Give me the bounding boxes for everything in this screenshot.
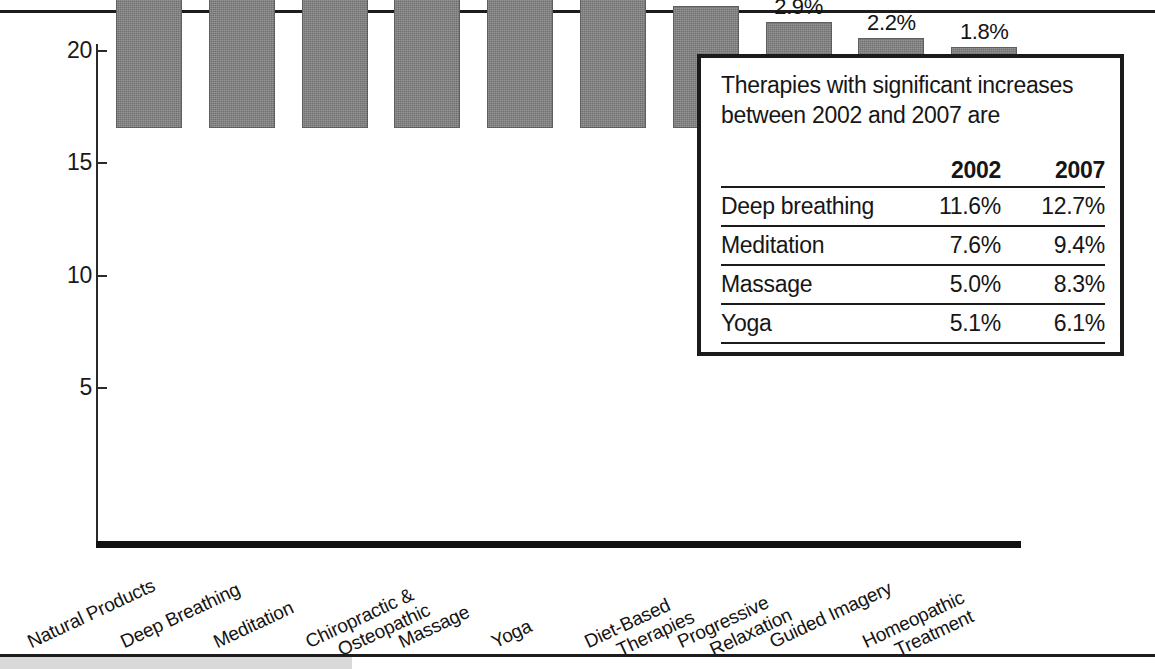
x-category-label: Yoga — [488, 615, 535, 652]
bar — [209, 0, 275, 128]
y-tick-label-text: 10 — [46, 264, 92, 287]
bar-value-label: 1.8% — [960, 21, 1009, 43]
y-tick-mark — [96, 275, 107, 277]
figure-root: 5101520 17.7%12.7%9.4%8.6%8.3%6.1%3.6%2.… — [0, 0, 1155, 669]
inset-data-table: 2002 2007 Deep breathing11.6%12.7%Medita… — [721, 152, 1105, 344]
inset-cell-2007: 12.7% — [1001, 187, 1105, 226]
bar-column: 8.6% — [394, 0, 460, 128]
inset-cell-2007: 6.1% — [1001, 304, 1105, 343]
bar-column: 17.7% — [116, 0, 182, 128]
inset-title: Therapies with significant increases bet… — [721, 70, 1111, 130]
inset-cell-therapy: Meditation — [721, 226, 897, 265]
bar-column: 12.7% — [209, 0, 275, 128]
y-tick-mark — [96, 162, 107, 164]
y-tick-mark — [96, 387, 107, 389]
inset-col-2007: 2007 — [1001, 152, 1105, 187]
inset-cell-2002: 7.6% — [897, 226, 1001, 265]
inset-cell-2007: 9.4% — [1001, 226, 1105, 265]
inset-callout-box: Therapies with significant increases bet… — [697, 54, 1124, 356]
bottom-gray-band — [0, 657, 352, 669]
inset-table-row: Massage5.0%8.3% — [721, 265, 1105, 304]
y-tick-label-text: 20 — [46, 39, 92, 62]
bar-value-label: 3.6% — [682, 0, 731, 2]
inset-table-row: Meditation7.6%9.4% — [721, 226, 1105, 265]
inset-table-row: Yoga5.1%6.1% — [721, 304, 1105, 343]
y-axis-line — [96, 44, 98, 546]
x-category-label-line: Yoga — [488, 615, 535, 652]
inset-col-therapy — [721, 152, 897, 187]
y-tick-mark — [96, 50, 107, 52]
inset-header-row: 2002 2007 — [721, 152, 1105, 187]
bar-value-label: 2.2% — [867, 12, 916, 34]
inset-cell-2007: 8.3% — [1001, 265, 1105, 304]
bar — [302, 0, 368, 128]
inset-cell-2002: 11.6% — [897, 187, 1001, 226]
inset-cell-therapy: Yoga — [721, 304, 897, 343]
inset-col-2002: 2002 — [897, 152, 1001, 187]
bar — [116, 0, 182, 128]
inset-table-row: Deep breathing11.6%12.7% — [721, 187, 1105, 226]
bar — [580, 0, 646, 128]
y-tick-label-text: 15 — [46, 151, 92, 174]
bar-column: 9.4% — [302, 0, 368, 128]
inset-table-head: 2002 2007 — [721, 152, 1105, 187]
inset-cell-2002: 5.0% — [897, 265, 1001, 304]
bar-column: 8.3% — [487, 0, 553, 128]
bar-column: 6.1% — [580, 0, 646, 128]
bar — [394, 0, 460, 128]
inset-table-body: Deep breathing11.6%12.7%Meditation7.6%9.… — [721, 187, 1105, 343]
bar-value-label: 2.9% — [774, 0, 823, 18]
bar — [487, 0, 553, 128]
inset-cell-therapy: Deep breathing — [721, 187, 897, 226]
inset-cell-2002: 5.1% — [897, 304, 1001, 343]
x-axis-baseline — [96, 541, 1021, 548]
inset-cell-therapy: Massage — [721, 265, 897, 304]
y-tick-label-text: 5 — [46, 376, 92, 399]
